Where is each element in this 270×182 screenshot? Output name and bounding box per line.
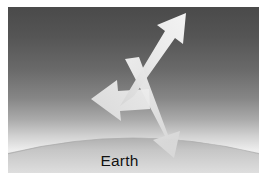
figure-root: Earth (0, 0, 270, 182)
scene-illustration (8, 7, 259, 173)
figure-frame: Earth (8, 7, 259, 173)
earth-label: Earth (8, 152, 259, 170)
